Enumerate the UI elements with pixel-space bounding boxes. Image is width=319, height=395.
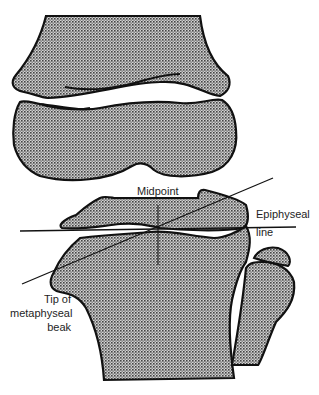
label-beak: beak (28, 321, 71, 334)
label-epiphyseal: Epiphyseal (256, 208, 310, 221)
label-tip-of: Tip of (28, 293, 71, 306)
femoral-epiphysis (13, 100, 236, 180)
tibia-shaft (51, 226, 250, 380)
label-metaphyseal: metaphyseal (10, 307, 71, 320)
fibula (232, 262, 294, 365)
label-line: line (256, 226, 273, 239)
label-midpoint: Midpoint (137, 185, 179, 198)
